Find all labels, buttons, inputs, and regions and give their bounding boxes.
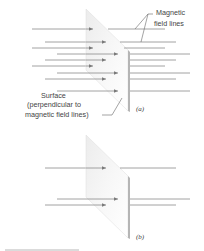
surface-label-line3: magnetic field lines) xyxy=(25,110,89,119)
field-lines-label-line1: Magnetic xyxy=(156,8,186,17)
surface-label-line1: Surface xyxy=(41,91,66,100)
field-lines-label-line2: field lines xyxy=(154,19,184,28)
surface-plate-a xyxy=(86,9,130,112)
panel-b-label: (b) xyxy=(136,233,145,241)
field-lines-right-b xyxy=(120,168,190,205)
field-lines-left xyxy=(32,29,86,91)
panel-a: Magnetic field lines Surface (perpendicu… xyxy=(25,8,190,119)
panel-a-label: (a) xyxy=(136,105,145,113)
field-lines-left-b xyxy=(45,168,86,205)
panel-b: (b) xyxy=(45,135,190,241)
magnetic-flux-diagram: Magnetic field lines Surface (perpendicu… xyxy=(0,0,204,251)
field-lines-callout-leader xyxy=(135,14,153,42)
surface-plate-b xyxy=(86,135,130,239)
surface-label-line2: (perpendicular to xyxy=(27,100,81,109)
